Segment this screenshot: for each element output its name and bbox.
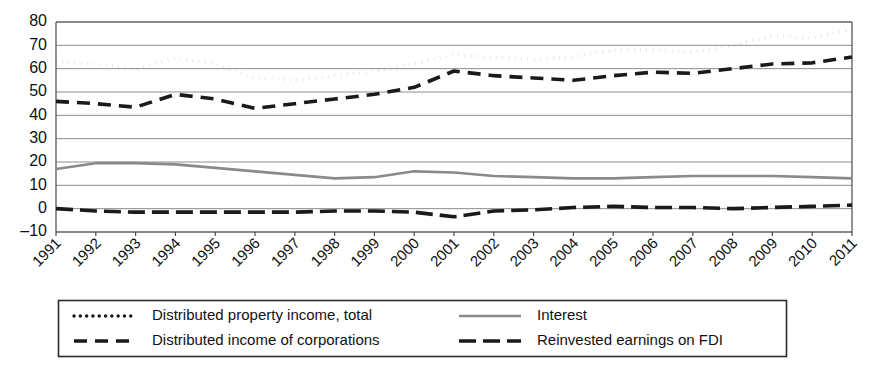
y-tick-label: –10 xyxy=(20,222,47,239)
x-tick-label: 2006 xyxy=(626,234,662,270)
x-tick-label: 2004 xyxy=(546,234,582,270)
x-tick-label: 2000 xyxy=(387,234,423,270)
legend-item-label: Distributed property income, total xyxy=(152,306,372,323)
x-tick-label: 2001 xyxy=(427,234,463,270)
x-tick-label: 1993 xyxy=(108,234,144,270)
legend-item-label: Distributed income of corporations xyxy=(152,331,380,348)
legend-item[interactable]: Distributed property income, total xyxy=(74,306,372,323)
x-tick-label: 1997 xyxy=(267,234,303,270)
series-line-2 xyxy=(56,163,852,178)
x-tick-label: 2011 xyxy=(825,234,860,269)
legend-item-label: Reinvested earnings on FDI xyxy=(537,331,723,348)
y-axis-tick-labels: –1001020304050607080 xyxy=(20,12,47,239)
legend-item[interactable]: Interest xyxy=(459,306,588,323)
y-tick-label: 40 xyxy=(29,106,47,123)
data-series-group xyxy=(56,29,852,217)
series-line-3 xyxy=(56,205,852,217)
x-tick-label: 1992 xyxy=(68,234,104,270)
x-tick-label: 1999 xyxy=(347,234,383,270)
x-tick-label: 1998 xyxy=(307,234,343,270)
y-tick-label: 30 xyxy=(29,129,47,146)
x-tick-label: 2009 xyxy=(745,234,781,270)
y-tick-label: 0 xyxy=(38,199,47,216)
legend-item[interactable]: Distributed income of corporations xyxy=(74,331,380,348)
x-tick-label: 1996 xyxy=(228,234,264,270)
series-line-1 xyxy=(56,57,852,108)
x-tick-label: 2007 xyxy=(665,234,701,270)
legend-items-group: Distributed property income, totalDistri… xyxy=(74,306,723,348)
chart-legend: Distributed property income, totalDistri… xyxy=(59,301,787,357)
x-axis-tick-labels: 1991199219931994199519961997199819992000… xyxy=(29,234,861,270)
x-tick-label: 2010 xyxy=(785,234,821,270)
legend-item-label: Interest xyxy=(537,306,588,323)
x-tick-label: 2005 xyxy=(586,234,622,270)
line-chart-figure: –1001020304050607080 1991199219931994199… xyxy=(0,0,870,372)
x-tick-label: 2002 xyxy=(466,234,502,270)
x-tick-label: 1991 xyxy=(29,234,65,270)
x-tick-label: 1994 xyxy=(148,234,184,270)
y-tick-label: 60 xyxy=(29,59,47,76)
y-tick-label: 50 xyxy=(29,82,47,99)
x-tick-label: 2003 xyxy=(506,234,542,270)
y-tick-label: 80 xyxy=(29,12,47,29)
y-tick-label: 70 xyxy=(29,36,47,53)
y-tick-label: 20 xyxy=(29,152,47,169)
chart-container: –1001020304050607080 1991199219931994199… xyxy=(0,0,870,372)
x-tick-label: 1995 xyxy=(188,234,224,270)
axes-group xyxy=(56,22,852,236)
gridlines-group xyxy=(56,22,852,232)
legend-item[interactable]: Reinvested earnings on FDI xyxy=(459,331,723,348)
x-tick-label: 2008 xyxy=(705,234,741,270)
y-tick-label: 10 xyxy=(29,176,47,193)
